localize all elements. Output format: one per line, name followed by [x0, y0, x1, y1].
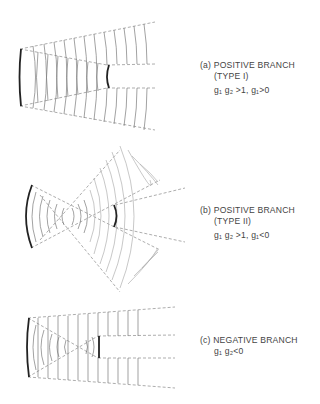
diagram-c [27, 307, 175, 388]
ray-cross-down [31, 185, 160, 250]
ray-cross-down [28, 318, 98, 358]
ray-inner-top [20, 49, 107, 65]
label-b-condition: g₁ g₂ >1, g₁<0 [200, 230, 295, 241]
output-edge-top [107, 64, 155, 65]
label-a-title: (a) POSITIVE BRANCH [200, 60, 295, 70]
mirror-left [20, 49, 22, 106]
ray-outer-top [28, 307, 175, 318]
label-c: (c) NEGATIVE BRANCH g₁ g₂<0 [200, 335, 298, 357]
mirror-left [27, 318, 29, 377]
ray-cross-up [28, 336, 98, 377]
mirror-right [114, 205, 117, 227]
ray-inner-bottom [20, 88, 107, 106]
label-b-title: (b) POSITIVE BRANCH [200, 205, 295, 215]
label-c-title: (c) NEGATIVE BRANCH [200, 335, 298, 345]
ray-fan-top [40, 150, 120, 240]
label-a-subtitle: (TYPE I) [200, 71, 295, 82]
label-b-subtitle: (TYPE II) [200, 216, 295, 227]
label-a: (a) POSITIVE BRANCH (TYPE I) g₁ g₂ >1, g… [200, 60, 295, 96]
mirror-right [107, 65, 109, 88]
ray-cross-up [31, 180, 160, 248]
mirror-left [26, 185, 32, 248]
ray-outer-bottom [28, 377, 175, 388]
diagram-a [20, 22, 156, 130]
label-b: (b) POSITIVE BRANCH (TYPE II) g₁ g₂ >1, … [200, 205, 295, 241]
ray-outer-bottom [20, 106, 155, 130]
label-c-condition: g₁ g₂<0 [200, 346, 298, 357]
label-a-condition: g₁ g₂ >1, g₁>0 [200, 85, 295, 96]
ray-outer-top [20, 22, 155, 49]
diagram-b [26, 146, 185, 292]
